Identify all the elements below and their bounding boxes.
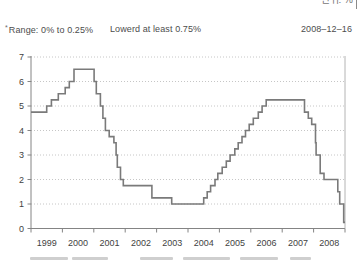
cropped-text-fragment (30, 257, 68, 260)
svg-text:6: 6 (19, 77, 24, 87)
step-line-chart-canvas: 0123456719992000200120022003200420052006… (0, 0, 360, 264)
svg-text:1999: 1999 (37, 238, 57, 248)
cropped-text-fragment (183, 257, 230, 260)
cropped-text-fragment (72, 257, 108, 260)
svg-text:2005: 2005 (225, 238, 245, 248)
rate-chart-panel: 단위: % *Range: 0% to 0.25% Lowerd at leas… (0, 0, 360, 264)
svg-text:0: 0 (19, 224, 24, 234)
svg-text:7: 7 (19, 52, 24, 62)
svg-text:3: 3 (19, 150, 24, 160)
svg-text:2: 2 (19, 175, 24, 185)
svg-text:2008: 2008 (319, 238, 339, 248)
svg-text:2003: 2003 (162, 238, 182, 248)
cropped-text-fragment (240, 257, 278, 260)
cropped-text-fragment (140, 257, 173, 260)
svg-text:2004: 2004 (194, 238, 214, 248)
cropped-text-fragment (290, 257, 311, 260)
svg-text:1: 1 (19, 199, 24, 209)
svg-text:2000: 2000 (68, 238, 88, 248)
svg-text:2006: 2006 (256, 238, 276, 248)
svg-text:4: 4 (19, 126, 24, 136)
svg-text:5: 5 (19, 101, 24, 111)
svg-text:2002: 2002 (131, 238, 151, 248)
svg-text:2007: 2007 (288, 238, 308, 248)
svg-text:2001: 2001 (99, 238, 119, 248)
